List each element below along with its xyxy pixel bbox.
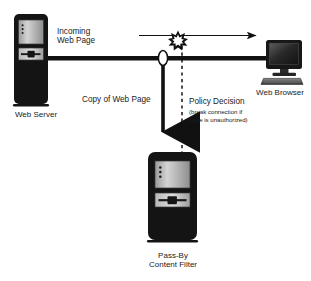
copy-of-web-page-label: Copy of Web Page	[82, 95, 151, 104]
web-server-icon	[13, 14, 49, 106]
web-browser-label: Web Browser	[251, 89, 309, 98]
network-diagram	[0, 0, 311, 281]
policy-decision-label: Policy Decision	[189, 97, 245, 106]
content-filter-icon	[147, 152, 198, 243]
content-filter-label-line2: Content Filter	[149, 260, 197, 269]
policy-decision-sublabel-line2: page is unauthorized)	[189, 116, 248, 123]
content-filter-label-line1: Pass-By	[158, 251, 188, 260]
incoming-web-page-label-line1: Incoming	[57, 27, 90, 36]
web-server-label: Web Server	[8, 111, 64, 120]
policy-decision-sublabel: (break connection if page is unauthorize…	[189, 108, 248, 123]
incoming-web-page-label-line2: Web Page	[57, 36, 95, 45]
policy-decision-sublabel-line1: (break connection if	[189, 108, 242, 115]
incoming-web-page-label: Incoming Web Page	[57, 27, 95, 45]
content-filter-label: Pass-By Content Filter	[138, 252, 208, 270]
ellipse-node-icon	[158, 51, 167, 66]
